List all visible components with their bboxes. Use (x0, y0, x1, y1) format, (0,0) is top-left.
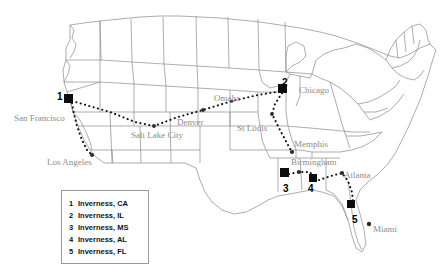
legend-number-4: 4 (69, 235, 78, 244)
legend-item-1: 1 Inverness, CA (62, 197, 148, 209)
route-chicago-memphis (272, 93, 292, 152)
city-label-los-angeles: Los Angeles (47, 158, 92, 167)
legend-label-2: Inverness, IL (78, 211, 124, 220)
city-label-memphis: Memphis (294, 140, 328, 149)
site-number-4: 4 (308, 184, 314, 194)
site-marker-5[interactable] (347, 200, 355, 208)
legend-label-4: Inverness, AL (78, 235, 127, 244)
waypoint-salt-lake-city (152, 124, 156, 128)
waypoint-birmingham (297, 170, 301, 174)
city-label-st-louis: St Louis (237, 124, 267, 133)
city-label-chicago: Chicago (299, 86, 329, 95)
waypoint-miami (367, 222, 371, 226)
legend-number-1: 1 (69, 199, 78, 208)
site-marker-4[interactable] (309, 174, 317, 182)
city-label-denver: Denver (177, 118, 204, 127)
city-label-miami: Miami (373, 225, 397, 234)
site-marker-3[interactable] (280, 168, 289, 177)
city-label-atlanta: Atlanta (344, 171, 371, 180)
us-map-figure: San Francisco Los Angeles Salt Lake City… (0, 0, 441, 276)
legend-item-3: 3 Inverness, MS (62, 221, 148, 233)
legend-item-2: 2 Inverness, IL (62, 209, 148, 221)
legend-label-3: Inverness, MS (78, 223, 128, 232)
legend-label-5: Inverness, FL (78, 247, 126, 256)
city-label-san-francisco: San Francisco (14, 114, 65, 123)
legend-label-1: Inverness, CA (78, 199, 128, 208)
waypoint-denver (201, 108, 205, 112)
legend-item-4: 4 Inverness, AL (62, 233, 148, 245)
city-label-salt-lake-city: Salt Lake City (131, 131, 183, 140)
route-sf-losangeles (72, 103, 92, 155)
site-number-3: 3 (283, 184, 289, 194)
site-number-2: 2 (282, 78, 288, 88)
legend-item-5: 5 Inverness, FL (62, 245, 148, 257)
city-label-omaha: Omaha (214, 94, 240, 103)
legend-number-2: 2 (69, 211, 78, 220)
waypoint-memphis (290, 150, 294, 154)
legend-number-5: 5 (69, 247, 78, 256)
site-number-1: 1 (57, 92, 63, 102)
site-number-5: 5 (352, 215, 358, 225)
legend-number-3: 3 (69, 223, 78, 232)
waypoint-st-louis (270, 112, 274, 116)
site-marker-1[interactable] (64, 94, 73, 103)
map-legend: 1 Inverness, CA 2 Inverness, IL 3 Invern… (61, 190, 149, 264)
city-label-birmingham: Birmingham (291, 158, 337, 167)
